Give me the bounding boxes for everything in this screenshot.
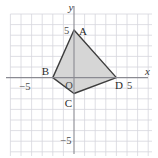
x-tick-minus-five: −5: [19, 81, 30, 92]
y-tick-minus-five: −5: [60, 135, 71, 146]
vertex-label-d: D: [115, 79, 123, 91]
y-tick-five: 5: [64, 25, 69, 36]
x-axis-label: x: [144, 65, 150, 77]
coordinate-plot-svg: x y −5 5 5 −5 O A B C D: [0, 0, 158, 158]
y-axis-label: y: [68, 1, 74, 13]
vertex-label-c: C: [65, 97, 72, 109]
origin-label: O: [65, 80, 73, 91]
coordinate-plane-figure: x y −5 5 5 −5 O A B C D: [0, 0, 158, 158]
vertex-label-a: A: [79, 25, 87, 37]
x-tick-five: 5: [127, 80, 132, 91]
vertex-label-b: B: [42, 65, 49, 77]
